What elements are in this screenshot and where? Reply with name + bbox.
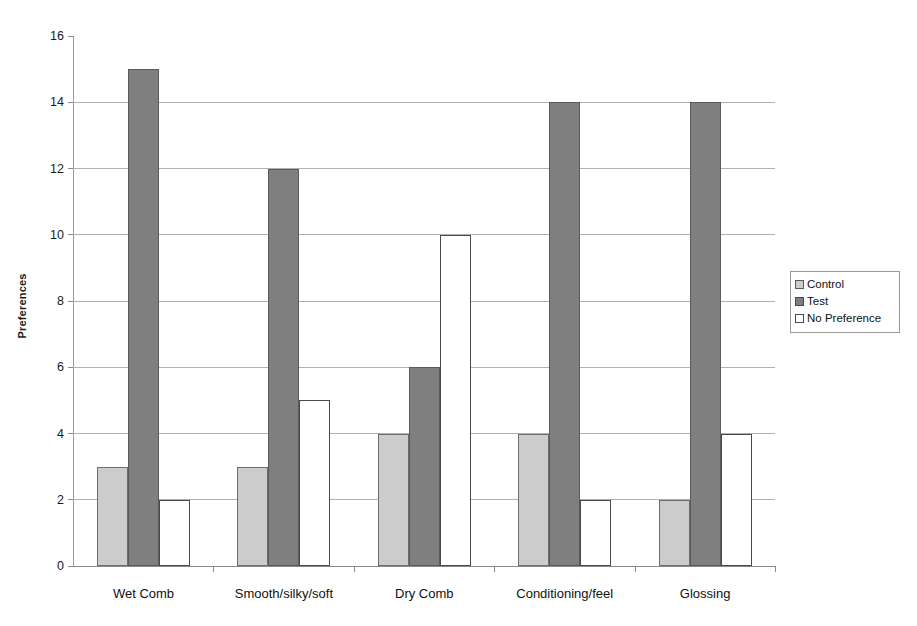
legend-swatch-icon — [795, 297, 804, 306]
bar-dry-comb-control — [378, 434, 409, 567]
y-tick-mark — [68, 433, 73, 434]
x-category-label: Smooth/silky/soft — [235, 586, 333, 601]
y-tick-label: 12 — [50, 162, 64, 176]
y-tick-mark — [68, 301, 73, 302]
legend-swatch-icon — [795, 280, 804, 289]
bar-wet-comb-no-preference — [159, 500, 190, 566]
y-tick-label: 8 — [57, 294, 64, 308]
chart-legend: ControlTestNo Preference — [790, 271, 900, 333]
bar-smooth-silky-soft-test — [268, 169, 299, 567]
y-axis-title: Preferences — [16, 273, 28, 338]
bar-glossing-control — [659, 500, 690, 566]
bar-conditioning-feel-test — [549, 102, 580, 566]
legend-label: Control — [807, 279, 844, 291]
gridline — [73, 301, 775, 302]
bar-chart: Preferences 0246810121416Wet CombSmooth/… — [0, 0, 917, 626]
legend-item-control[interactable]: Control — [795, 276, 896, 293]
y-tick-label: 6 — [57, 360, 64, 374]
x-tick-mark — [775, 566, 776, 572]
x-tick-mark — [354, 566, 355, 572]
x-category-label: Conditioning/feel — [516, 586, 613, 601]
y-tick-mark — [68, 367, 73, 368]
gridline — [73, 168, 775, 169]
legend-label: No Preference — [807, 313, 881, 325]
bar-conditioning-feel-control — [518, 434, 549, 567]
legend-swatch-icon — [795, 314, 804, 323]
gridline — [73, 234, 775, 235]
bar-dry-comb-no-preference — [440, 235, 471, 566]
bar-wet-comb-test — [128, 69, 159, 566]
x-tick-mark — [635, 566, 636, 572]
bar-glossing-test — [690, 102, 721, 566]
bar-conditioning-feel-no-preference — [580, 500, 611, 566]
bar-glossing-no-preference — [721, 434, 752, 567]
gridline — [73, 102, 775, 103]
legend-item-test[interactable]: Test — [795, 293, 896, 310]
plot-area: 0246810121416Wet CombSmooth/silky/softDr… — [73, 36, 775, 566]
y-tick-mark — [68, 234, 73, 235]
y-tick-label: 4 — [57, 427, 64, 441]
y-tick-mark — [68, 102, 73, 103]
y-tick-mark — [68, 499, 73, 500]
y-tick-label: 14 — [50, 95, 64, 109]
legend-label: Test — [807, 296, 828, 308]
x-tick-mark — [494, 566, 495, 572]
bar-smooth-silky-soft-control — [237, 467, 268, 566]
x-category-label: Glossing — [680, 586, 731, 601]
y-tick-label: 0 — [57, 559, 64, 573]
y-tick-label: 16 — [50, 29, 64, 43]
y-tick-mark — [68, 168, 73, 169]
x-category-label: Wet Comb — [113, 586, 174, 601]
bar-smooth-silky-soft-no-preference — [299, 400, 330, 566]
y-tick-label: 10 — [50, 228, 64, 242]
x-category-label: Dry Comb — [395, 586, 454, 601]
y-tick-mark — [68, 566, 73, 567]
y-tick-mark — [68, 36, 73, 37]
bar-wet-comb-control — [97, 467, 128, 566]
y-tick-label: 2 — [57, 493, 64, 507]
legend-item-no-preference[interactable]: No Preference — [795, 310, 896, 327]
x-tick-mark — [213, 566, 214, 572]
bar-dry-comb-test — [409, 367, 440, 566]
